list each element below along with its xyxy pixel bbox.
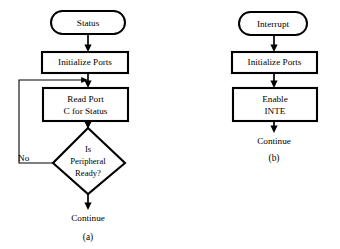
initialize-ports-b-label: Initialize Ports — [248, 57, 302, 67]
arrow-head-icon — [270, 44, 277, 52]
decision-label-line2: Peripheral — [70, 156, 106, 166]
continue-label-a: Continue — [71, 213, 105, 223]
node-initialize-ports-a[interactable]: Initialize Ports — [42, 52, 128, 73]
node-enable-inte[interactable]: Enable INTE — [233, 88, 317, 121]
arrow-head-icon — [270, 80, 277, 88]
node-read-port[interactable]: Read Port C for Status — [43, 88, 128, 121]
arrow-interrupt-to-init — [270, 35, 277, 52]
flowchart-canvas: Status Initialize Ports — [0, 0, 340, 249]
enable-inte-label-line2: INTE — [265, 106, 286, 116]
arrow-head-icon — [84, 44, 91, 52]
flowchart-figure: Status Initialize Ports — [0, 0, 340, 249]
arrow-enable-to-continue-b — [270, 121, 277, 133]
arrow-status-to-init — [84, 34, 91, 52]
arrow-head-icon — [84, 80, 91, 88]
caption-b: (b) — [269, 153, 280, 164]
node-status[interactable]: Status — [51, 11, 125, 34]
diagram-b: Interrupt Initialize Ports Enable — [232, 12, 317, 164]
read-port-label-line2: C for Status — [64, 106, 108, 116]
interrupt-label: Interrupt — [257, 19, 290, 29]
continue-label-b: Continue — [257, 136, 291, 146]
edge-label-no: No — [18, 153, 30, 163]
diagram-a: Status Initialize Ports — [18, 11, 128, 243]
arrow-head-icon — [270, 125, 277, 133]
node-decision-peripheral-ready[interactable]: Is Peripheral Ready? — [53, 128, 125, 194]
initialize-ports-a-label: Initialize Ports — [58, 57, 112, 67]
arrow-decision-to-continue-a — [84, 194, 91, 210]
status-label: Status — [77, 18, 100, 28]
caption-a: (a) — [83, 232, 93, 243]
arrow-head-icon — [84, 202, 91, 210]
enable-inte-label-line1: Enable — [262, 94, 288, 104]
arrow-init-to-enable — [270, 73, 277, 88]
read-port-label-line1: Read Port — [67, 94, 104, 104]
decision-label-line1: Is — [85, 144, 92, 154]
node-initialize-ports-b[interactable]: Initialize Ports — [232, 52, 317, 73]
decision-label-line3: Ready? — [75, 168, 101, 178]
node-interrupt[interactable]: Interrupt — [239, 12, 307, 35]
